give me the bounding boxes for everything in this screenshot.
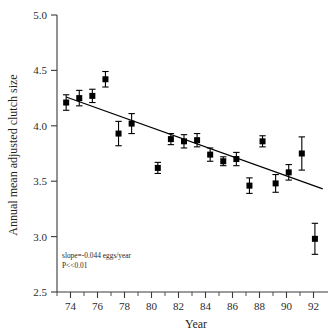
point-marker	[89, 93, 95, 99]
y-tick-label: 4.5	[33, 64, 47, 76]
data-point	[272, 175, 278, 193]
x-tick-label: 76	[92, 300, 104, 312]
data-point	[63, 95, 69, 111]
y-tick-label: 2.5	[33, 286, 47, 298]
x-tick-label: 88	[254, 300, 266, 312]
point-marker	[299, 151, 305, 157]
x-tick-label: 92	[308, 300, 319, 312]
data-point	[246, 178, 252, 194]
point-marker	[155, 165, 161, 171]
data-point	[220, 157, 226, 166]
point-marker	[194, 137, 200, 143]
data-point	[155, 162, 161, 173]
y-axis-tick-labels: 5.0 4.5 4.0 3.5 3.0 2.5	[33, 9, 47, 298]
y-tick-label: 3.5	[33, 175, 47, 187]
caption-fragment: ​	[0, 325, 333, 335]
data-point	[181, 135, 187, 148]
data-points-group	[63, 72, 318, 255]
y-tick-label: 3.0	[33, 231, 47, 243]
point-marker	[129, 121, 135, 127]
pvalue-annotation: P<<0.01	[62, 261, 88, 270]
data-point	[259, 136, 265, 147]
y-tick-label: 5.0	[33, 9, 47, 21]
x-tick-label: 74	[65, 300, 77, 312]
scatter-plot: 5.0 4.5 4.0 3.5 3.0 2.5	[0, 0, 333, 335]
y-axis-ticks	[51, 15, 57, 292]
point-marker	[273, 180, 279, 186]
point-marker	[116, 131, 122, 137]
x-tick-label: 84	[200, 300, 212, 312]
point-marker	[233, 156, 239, 162]
point-marker	[63, 100, 69, 106]
x-tick-label: 86	[227, 300, 239, 312]
x-axis-tick-labels: 74 76 78 80 82 84 86 88 90 92	[65, 300, 319, 312]
data-point	[128, 114, 134, 134]
point-marker	[181, 138, 187, 144]
x-tick-label: 78	[119, 300, 131, 312]
data-point	[102, 72, 108, 88]
point-marker	[168, 136, 174, 142]
point-marker	[102, 76, 108, 82]
point-marker	[207, 152, 213, 158]
data-point	[312, 223, 318, 254]
x-tick-label: 90	[281, 300, 293, 312]
x-tick-label: 82	[173, 300, 184, 312]
data-point	[76, 90, 82, 106]
x-tick-label: 80	[146, 300, 158, 312]
data-point	[115, 121, 121, 145]
point-marker	[260, 138, 266, 144]
data-point	[89, 89, 95, 102]
figure-container: 5.0 4.5 4.0 3.5 3.0 2.5	[0, 0, 333, 335]
point-marker	[220, 158, 226, 164]
point-marker	[76, 95, 82, 101]
point-marker	[246, 183, 252, 189]
y-tick-label: 4.0	[33, 120, 47, 132]
data-point	[299, 137, 305, 170]
data-point	[233, 152, 239, 165]
y-axis-title: Annual mean adjusted clutch size	[6, 74, 20, 235]
point-marker	[312, 236, 318, 242]
slope-annotation: slope=-0.044 eggs/year	[62, 251, 132, 260]
point-marker	[286, 169, 292, 175]
